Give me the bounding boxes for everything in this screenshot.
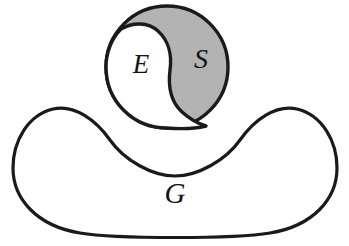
diagram-canvas: E S G [0,0,349,246]
set-diagram-svg: E S G [0,0,349,246]
label-s: S [194,43,208,74]
label-e: E [132,49,150,79]
label-g: G [165,177,186,209]
